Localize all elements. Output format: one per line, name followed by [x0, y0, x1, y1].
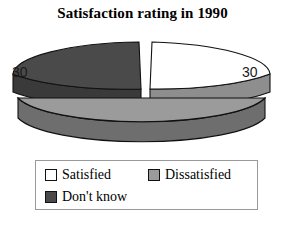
- legend-label-satisfied: Satisfied: [62, 167, 111, 183]
- legend-label-dontknow: Don't know: [62, 189, 127, 205]
- pie-chart-graphic: 30 30 40: [0, 26, 285, 152]
- legend-swatch-dontknow: [45, 191, 57, 203]
- legend-item-dontknow[interactable]: Don't know: [45, 185, 127, 208]
- legend-row: Satisfied Dissatisfied: [36, 163, 257, 186]
- data-label-satisfied: 30: [242, 64, 258, 80]
- legend-swatch-satisfied: [45, 169, 57, 181]
- chart-legend: Satisfied Dissatisfied Don't know: [35, 160, 258, 210]
- legend-row: Don't know: [36, 185, 257, 208]
- legend-label-dissatisfied: Dissatisfied: [165, 167, 231, 183]
- pie-chart-svg: [0, 26, 285, 152]
- chart-title: Satisfaction rating in 1990: [0, 4, 285, 22]
- data-label-dontknow: 30: [12, 64, 28, 80]
- legend-swatch-dissatisfied: [148, 169, 160, 181]
- chart-figure: Satisfaction rating in 1990: [0, 0, 285, 226]
- pie-slice-dissatisfied[interactable]: [18, 98, 265, 142]
- legend-item-dissatisfied[interactable]: Dissatisfied: [148, 163, 231, 186]
- legend-item-satisfied[interactable]: Satisfied: [45, 163, 111, 186]
